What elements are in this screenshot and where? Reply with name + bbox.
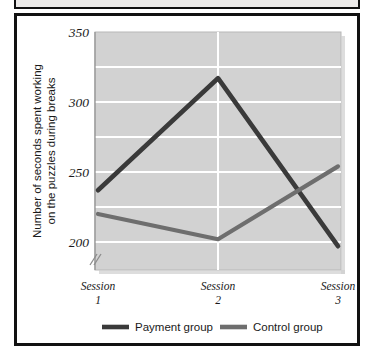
- x-label-session-2-number: 2: [215, 294, 221, 306]
- y-axis-tick-labels: 350 300 250 200: [68, 25, 90, 250]
- y-axis-title-line2: on the puzzles during breaks: [45, 77, 57, 224]
- x-label-session-2-word: Session: [201, 280, 236, 292]
- x-axis-tick-labels: Session 1 Session 2 Session 3: [81, 280, 356, 306]
- plot-area-shadow-bottom: [99, 270, 345, 274]
- x-label-session-3-word: Session: [321, 280, 356, 292]
- x-label-session-1-number: 1: [95, 294, 101, 306]
- figure-frame: 350 300 250 200 Number of seconds spent …: [14, 13, 360, 346]
- top-edge-strip: [14, 0, 360, 9]
- y-axis-title-line1: Number of seconds spent working: [31, 64, 43, 238]
- plot-area-shadow-right: [341, 36, 345, 274]
- line-chart: 350 300 250 200 Number of seconds spent …: [17, 16, 357, 343]
- y-tick-250: 250: [69, 165, 90, 180]
- x-label-session-3-number: 3: [334, 294, 341, 306]
- legend-item-payment-group[interactable]: Payment group: [102, 321, 213, 333]
- y-tick-300: 300: [68, 95, 90, 110]
- legend-label-payment-group: Payment group: [135, 321, 213, 333]
- x-label-session-1-word: Session: [81, 280, 116, 292]
- y-tick-350: 350: [68, 25, 90, 40]
- chart-legend: Payment group Control group: [102, 321, 323, 333]
- legend-label-control-group: Control group: [253, 321, 323, 333]
- legend-item-control-group[interactable]: Control group: [220, 321, 323, 333]
- y-axis-title: Number of seconds spent working on the p…: [31, 64, 57, 238]
- y-tick-200: 200: [69, 235, 90, 250]
